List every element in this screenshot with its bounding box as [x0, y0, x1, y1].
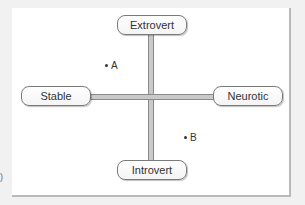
- point-b-label: B: [190, 132, 197, 143]
- point-b: B: [184, 132, 197, 143]
- stable-neurotic-axis: [88, 94, 218, 100]
- edge-fragment: ): [0, 172, 3, 182]
- point-b-dot-icon: [184, 136, 187, 139]
- extrovert-label: Extrovert: [130, 19, 174, 31]
- neurotic-label: Neurotic: [228, 90, 269, 102]
- neurotic-node: Neurotic: [213, 86, 283, 106]
- extrovert-node: Extrovert: [117, 15, 187, 35]
- introvert-label: Introvert: [132, 164, 172, 176]
- point-a-label: A: [111, 60, 118, 71]
- introvert-node: Introvert: [117, 160, 187, 180]
- stable-label: Stable: [40, 90, 71, 102]
- stable-node: Stable: [21, 86, 91, 106]
- point-a: A: [105, 60, 118, 71]
- point-a-dot-icon: [105, 64, 108, 67]
